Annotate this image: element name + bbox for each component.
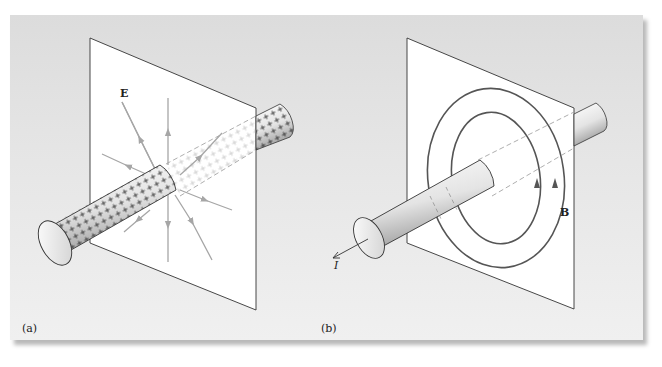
magnetic-field-label: B (560, 206, 569, 219)
panel-b-caption: (b) (321, 322, 337, 335)
panel-b-diagram (333, 38, 607, 309)
wire-b-far-section (574, 103, 607, 146)
figure-drawing (0, 0, 662, 367)
panel-a-diagram (31, 38, 293, 310)
rod-a-far-section (256, 104, 293, 150)
electric-field-label: E (120, 87, 128, 100)
panel-a-caption: (a) (22, 322, 37, 335)
current-label: I (334, 259, 338, 272)
